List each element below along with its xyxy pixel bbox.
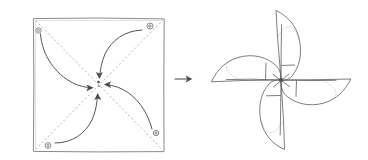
hole-bottom-right-inner	[155, 132, 157, 134]
transition-arrow	[175, 76, 192, 83]
blade-top-panel-edge	[281, 65, 294, 66]
panel-left-square-sheet	[33, 18, 164, 152]
square-center-dot-secondary	[98, 85, 100, 87]
hole-bottom-left	[45, 143, 51, 149]
blade-left-panel-edge	[266, 63, 267, 79]
blade-top	[276, 11, 301, 81]
blade-right-panel-edge	[296, 80, 297, 96]
fold-arrow-from-top-right-head	[96, 72, 103, 79]
fold-arrow-from-bottom-right	[106, 85, 153, 129]
fold-arrow-from-top-right	[100, 30, 142, 77]
fold-arrow-from-bottom-right-head	[104, 81, 111, 88]
fold-arrow-from-top-left	[41, 34, 93, 88]
hole-top-left-inner	[37, 29, 39, 31]
blade-left	[212, 56, 282, 82]
hole-top-right	[147, 23, 153, 29]
sketch-canvas: Pinwheel folding construction sketch	[0, 0, 368, 160]
hole-top-left	[36, 28, 41, 33]
pinwheel-construction-diagram	[0, 0, 368, 160]
panel-right-pinwheel	[212, 11, 351, 150]
hole-bottom-right	[153, 130, 158, 135]
blade-right	[281, 79, 351, 105]
square-center-dot	[97, 81, 100, 84]
hole-top-right-inner	[149, 25, 151, 27]
hole-bottom-left-inner	[47, 144, 49, 146]
fold-arrow-from-bottom-left	[55, 95, 98, 143]
